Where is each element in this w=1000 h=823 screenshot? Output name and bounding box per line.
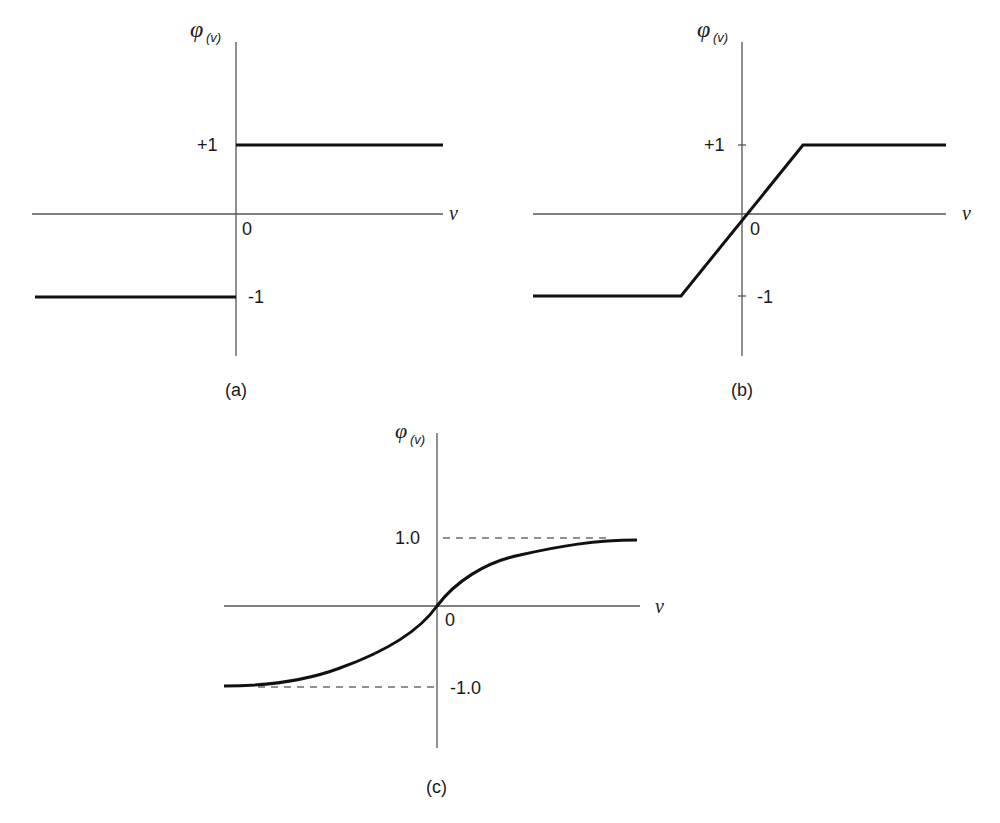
origin-label: 0	[242, 219, 252, 239]
sigmoid-curve	[224, 540, 637, 686]
y-axis-label-sub: (v)	[713, 30, 728, 45]
lower-tick-label: -1	[757, 287, 773, 307]
piecewise-linear-curve	[533, 145, 946, 296]
origin-label: 0	[445, 610, 455, 630]
y-axis-label: φ	[697, 16, 710, 42]
upper-tick-label: 1.0	[395, 528, 420, 548]
activation-functions-figure: φ (v) v 0 +1 -1 (a) φ (v) v 0 +1 -1 (b) …	[0, 0, 1000, 823]
origin-label: 0	[750, 219, 760, 239]
panel-caption: (c)	[426, 777, 447, 797]
lower-tick-label: -1	[248, 287, 264, 307]
panel-a: φ (v) v 0 +1 -1 (a)	[32, 16, 458, 400]
panel-caption: (b)	[731, 380, 753, 400]
upper-tick-label: +1	[704, 135, 725, 155]
panel-caption: (a)	[225, 380, 247, 400]
panel-b: φ (v) v 0 +1 -1 (b)	[533, 16, 971, 400]
x-axis-label: v	[449, 202, 458, 224]
y-axis-label: φ	[395, 418, 407, 443]
y-axis-label-sub: (v)	[206, 30, 221, 45]
upper-tick-label: +1	[197, 135, 218, 155]
x-axis-label: v	[962, 202, 971, 224]
panel-c: φ (v) v 0 1.0 -1.0 (c)	[224, 418, 664, 797]
y-axis-label: φ	[190, 16, 203, 42]
y-axis-label-sub: (v)	[410, 432, 425, 447]
x-axis-label: v	[655, 595, 664, 617]
lower-tick-label: -1.0	[450, 678, 481, 698]
